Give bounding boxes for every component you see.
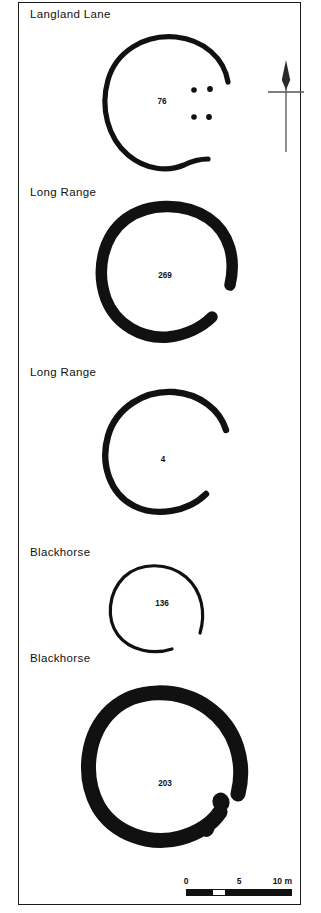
ditch-outline-136	[110, 566, 202, 652]
north-arrow-head	[282, 60, 290, 90]
pit-marker	[191, 114, 197, 120]
ring-ditch-figure: Langland Lane 76 Long Range 269 Long Ran…	[0, 0, 321, 913]
ring-ditch-plan-203	[80, 682, 260, 854]
north-arrow	[265, 58, 307, 154]
site-label-long-range-269: Long Range	[30, 186, 96, 198]
pit-marker	[191, 87, 197, 93]
ditch-outline-203	[89, 693, 241, 841]
scale-label-end: 10 m	[273, 876, 292, 886]
feature-number-136: 136	[155, 599, 169, 608]
scale-label-start: 0	[184, 876, 189, 886]
feature-number-4: 4	[161, 455, 166, 464]
scale-bar-labels: 0 5 10 m	[186, 876, 292, 889]
site-label-langland-lane-76: Langland Lane	[30, 8, 111, 20]
site-label-long-range-4: Long Range	[30, 366, 96, 378]
ring-ditch-plan-4	[92, 382, 244, 518]
site-label-blackhorse-203: Blackhorse	[30, 652, 90, 664]
ring-ditch-plan-76	[88, 22, 248, 182]
pit-marker	[207, 86, 213, 92]
feature-number-76: 76	[157, 97, 166, 106]
scale-bar-track	[186, 889, 292, 896]
scale-segment-filled	[239, 890, 291, 895]
scale-label-middle: 5	[237, 876, 242, 886]
pit-marker	[206, 114, 212, 120]
scale-bar: 0 5 10 m	[186, 876, 292, 896]
site-label-blackhorse-136: Blackhorse	[30, 546, 90, 558]
ditch-outline-4	[105, 392, 226, 512]
feature-number-269: 269	[158, 271, 172, 280]
feature-number-203: 203	[158, 779, 172, 788]
scale-segment-filled	[225, 890, 239, 895]
scale-segment-filled	[187, 890, 213, 895]
